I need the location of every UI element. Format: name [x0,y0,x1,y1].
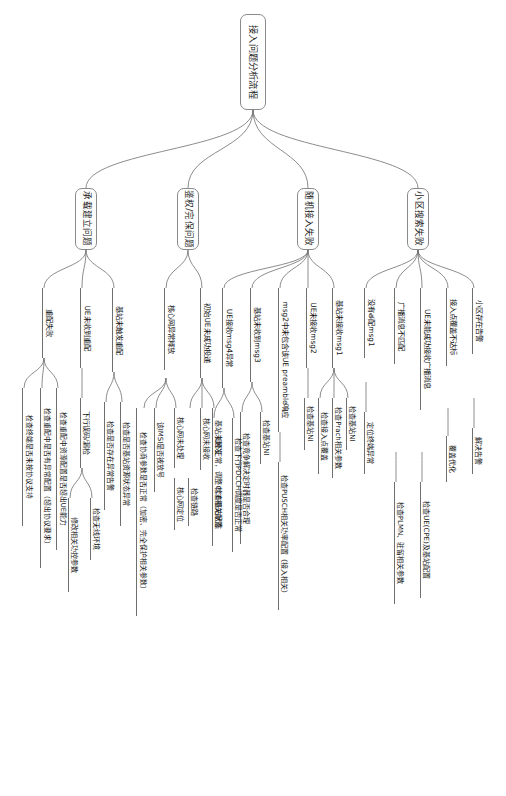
underline [80,288,81,368]
underline [346,398,347,450]
node-check-abnormal-reconfig[interactable]: 检查重配中是否有异常配置（超出协议要求） [41,388,54,568]
underline [164,288,165,370]
node-coverage-substandard[interactable]: 接入点覆盖不达标 [447,288,460,366]
node-check-enb-status[interactable]: 检查基站状态 [213,478,226,538]
node-dl-error-miss[interactable]: 下行误码/漏检 [81,398,94,468]
node-label: 基站未触发 [214,420,222,455]
node-modify-power-control[interactable]: 修改相关功控参数 [69,498,82,592]
node-check-pdcch-scheduling[interactable]: 检查下行PDCCH调度是否正常 [233,418,246,552]
node-check-terminal-protocol-support[interactable]: 检查终端是否未按协议支持 [23,388,36,526]
node-label: 初始UE未成功投递 [202,303,211,362]
node-label: 广播消息不匹配 [396,302,405,351]
underline [112,288,113,372]
branch-label: 承载建立问题 [81,191,91,246]
underline [420,482,421,598]
node-core-abnormal-release[interactable]: 核心网异常释放 [165,288,178,370]
mindmap-canvas: 接入问题分析流程 小区搜索失败 随机接入失败 鉴权/完保问题 承载建立问题 小区… [0,0,506,796]
node-coverage-optimize[interactable]: 覆盖优化 [447,436,460,482]
underline [318,398,319,474]
node-label: UE接收msg4异常 [224,309,233,368]
branch-random-access[interactable]: 随机接入失败 [297,188,319,250]
branch-label: 鉴权/完保问题 [183,190,193,248]
underline [394,482,395,604]
node-ue-no-reconfig[interactable]: UE未收到重配 [81,288,94,368]
node-check-negotiated-params[interactable]: 检查协商参数是否正常（加密、完全保护相关参数） [137,408,150,616]
node-imsi-provisioned[interactable]: 该IMSI是否被放号 [155,408,168,492]
node-check-enb-ni-1[interactable]: 检查基站NI [347,398,360,450]
node-check-abnormal-alarm[interactable]: 检查是否存在异常告警 [105,402,118,510]
node-label: 接入点覆盖不达标 [448,299,457,355]
node-label: UE未收到重配 [82,305,91,350]
node-label: 检查接入点覆盖 [320,412,328,461]
node-label: 检查UE(CPE)及基站配置 [422,501,430,579]
node-label: 检查基站NI [348,406,356,441]
node-label: UE未能成功接收广播消息 [422,309,431,389]
node-label: 检查链路 [190,488,198,516]
node-check-enb-ni-3[interactable]: 检查基站NI [261,412,274,464]
underline [260,412,261,464]
branch-auth-integrity[interactable]: 鉴权/完保问题 [177,188,199,250]
node-label: 核心网异常释放 [166,305,175,354]
branch-label: 随机接入失败 [303,191,313,246]
node-check-radio-env[interactable]: 检查无线环境 [91,498,104,560]
node-label: 检查无线环境 [92,508,100,550]
node-check-enb-resource-state[interactable]: 检查是否基站资源状态异常 [121,402,134,526]
branch-cell-search[interactable]: 小区搜索失败 [407,188,429,250]
underline [56,388,57,550]
node-label: 检查基站NI [306,406,314,441]
node-core-not-processed[interactable]: 核心网未处理 [175,408,188,468]
root-node[interactable]: 接入问题分析流程 [240,14,266,110]
underline [250,288,251,382]
branch-bearer-setup[interactable]: 承载建立问题 [75,188,97,250]
node-label: 检查终端是否未按协议支持 [24,415,32,499]
node-check-ue-enb-config[interactable]: 检查UE(CPE)及基站配置 [421,482,434,598]
node-label: 核心网未接收 [202,418,210,460]
node-ue-msg4-abnormal[interactable]: UE接收msg4异常 [223,288,236,388]
underline [174,478,175,530]
node-label: 核心网定位 [176,487,184,522]
node-ue-no-msg2[interactable]: UE未接收msg2 [307,288,320,368]
node-check-resource-exceeds-ue[interactable]: 检查重配中资源配置是否超出UE能力 [57,388,70,550]
node-enb-no-msg1[interactable]: 基站未接收msg1 [333,288,346,368]
underline [200,288,201,378]
root-label: 接入问题分析流程 [248,25,259,99]
node-check-pusch-power[interactable]: 检查PUSCH相关功率配置（接入相关） [279,462,292,610]
node-core-not-received[interactable]: 核心网未接收 [201,408,214,470]
underline [120,402,121,526]
underline [188,478,189,526]
node-check-prach-params-1[interactable]: 检查Prach相关参数 [333,398,346,478]
node-enb-no-reconfig[interactable]: 基站未触发重配 [113,288,126,372]
node-msg2-no-preamble[interactable]: msg2中未包含该UE preamble响应 [279,288,292,432]
node-locate-terminal-fault[interactable]: 定位终端异常 [365,412,378,474]
node-resolve-alarm[interactable]: 解决告警 [473,428,486,474]
node-enb-not-triggered[interactable]: 基站未触发 [213,408,226,466]
node-label: 该IMSI是否被放号 [156,422,164,479]
node-no-msg1[interactable]: 没有త配msg1 [365,288,378,358]
node-core-locate[interactable]: 核心网定位 [175,478,188,530]
node-label: 检查PLMN、驻留相关参数 [396,502,404,584]
underline [364,288,365,358]
node-label: 检查协商参数是否正常（加密、完全保护相关参数） [138,432,146,593]
node-broadcast-mismatch[interactable]: 广播消息不匹配 [395,288,408,364]
underline [154,408,155,492]
underline [80,398,81,468]
underline [90,498,91,560]
node-reconfig-failed[interactable]: 重配失败 [43,288,56,358]
node-check-enb-ni-2[interactable]: 检查基站NI [305,398,318,450]
node-check-plmn-camp[interactable]: 检查PLMN、驻留相关参数 [395,482,408,604]
node-label: 解决告警 [474,437,482,465]
underline [42,288,43,358]
node-ue-broadcast-fail[interactable]: UE未能成功接收广播消息 [421,288,434,410]
node-check-ap-coverage-1[interactable]: 检查接入点覆盖 [319,398,332,474]
underline [232,418,233,552]
underline [472,288,473,354]
node-check-link[interactable]: 检查链路 [189,478,202,526]
underline [104,402,105,510]
node-cell-alarm[interactable]: 小区存在告警 [473,288,486,354]
node-initial-ue-not-delivered[interactable]: 初始UE未成功投递 [201,288,214,378]
node-label: 下行误码/漏检 [82,411,90,455]
node-enb-no-msg3[interactable]: 基站未收到msg3 [251,288,264,382]
node-label: 修改相关功控参数 [70,517,78,573]
node-label: 覆盖优化 [448,445,456,473]
underline [40,388,41,568]
